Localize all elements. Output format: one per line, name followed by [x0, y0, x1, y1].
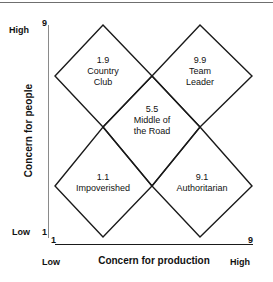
y-axis-high-label: High: [9, 26, 29, 35]
cell-name-line1: Country: [71, 66, 135, 77]
cell-name-line1: Authoritarian: [160, 183, 244, 194]
cell-code: 5.5: [113, 104, 191, 115]
x-axis-title: Concern for production: [55, 255, 253, 266]
cell-name-line1: Impoverished: [64, 183, 142, 194]
cell-label-team-leader: 9.9 Team Leader: [168, 55, 232, 88]
cell-name-line1: Middle of: [113, 115, 191, 126]
managerial-grid-figure: Concern for people High Low 9 1 Concern …: [0, 0, 273, 282]
cell-code: 1.1: [64, 172, 142, 183]
cell-label-impoverished: 1.1 Impoverished: [64, 172, 142, 194]
x-axis-low-label: Low: [42, 258, 60, 267]
cell-name-line2: Leader: [168, 77, 232, 88]
grid-diamonds: [0, 0, 273, 282]
cell-code: 9.9: [168, 55, 232, 66]
x-axis-max-tick: 9: [248, 236, 253, 245]
cell-label-middle-of-the-road: 5.5 Middle of the Road: [113, 104, 191, 137]
y-axis-min-tick: 1: [42, 228, 47, 237]
cell-name-line2: the Road: [113, 126, 191, 137]
cell-label-country-club: 1.9 Country Club: [71, 55, 135, 88]
y-axis-title: Concern for people: [23, 56, 34, 206]
y-axis-low-label: Low: [12, 228, 30, 237]
cell-code: 1.9: [71, 55, 135, 66]
cell-name-line1: Team: [168, 66, 232, 77]
x-axis-min-tick: 1: [51, 236, 56, 245]
y-axis-max-tick: 9: [42, 19, 47, 28]
x-axis-high-label: High: [230, 258, 250, 267]
cell-label-authoritarian: 9.1 Authoritarian: [160, 172, 244, 194]
cell-code: 9.1: [160, 172, 244, 183]
cell-name-line2: Club: [71, 77, 135, 88]
